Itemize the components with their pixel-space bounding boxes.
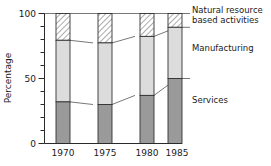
x-tick-label-1980: 1980 [136, 148, 159, 158]
x-tick-label-1985: 1985 [166, 148, 189, 158]
y-axis-major-ticks [39, 14, 45, 144]
bar-segment-manufacturing-1975[interactable] [98, 43, 112, 105]
y-axis: 100 50 0 Percentage [3, 9, 45, 149]
bar-segment-services-1985[interactable] [168, 79, 182, 144]
x-tick-label-1970: 1970 [52, 148, 75, 158]
legend-label-manufacturing: Manufacturing [192, 43, 254, 53]
bar-group-1985[interactable] [168, 14, 182, 144]
y-tick-label-100: 100 [19, 9, 36, 19]
bar-group-1980[interactable] [140, 14, 154, 144]
bar-segment-manufacturing-1970[interactable] [56, 40, 70, 102]
bar-group-1975[interactable] [98, 14, 112, 144]
chart-svg: 100 50 0 Percentage [0, 0, 271, 166]
bar-segment-natural-resource-1985[interactable] [168, 14, 182, 28]
legend: Natural resource based activities Manufa… [192, 5, 263, 105]
bar-segment-manufacturing-1985[interactable] [168, 27, 182, 78]
x-axis-labels: 1970 1975 1980 1985 [52, 148, 189, 158]
y-tick-label-50: 50 [25, 74, 37, 84]
bar-segment-services-1970[interactable] [56, 102, 70, 144]
x-tick-label-1975: 1975 [94, 148, 117, 158]
legend-label-natural-resource-line1: Natural resource [192, 5, 263, 15]
bar-segment-services-1975[interactable] [98, 105, 112, 144]
legend-label-natural-resource-line2: based activities [192, 15, 259, 25]
bar-segment-natural-resource-1970[interactable] [56, 14, 70, 41]
bar-segment-natural-resource-1975[interactable] [98, 14, 112, 43]
bar-segment-manufacturing-1980[interactable] [140, 36, 154, 95]
y-axis-title: Percentage [3, 52, 13, 103]
bar-segment-natural-resource-1980[interactable] [140, 14, 154, 37]
bar-group-1970[interactable] [56, 14, 70, 144]
y-tick-label-0: 0 [30, 139, 36, 149]
legend-label-services: Services [192, 95, 228, 105]
bar-segment-services-1980[interactable] [140, 95, 154, 143]
stacked-bar-chart: 100 50 0 Percentage [0, 0, 271, 166]
